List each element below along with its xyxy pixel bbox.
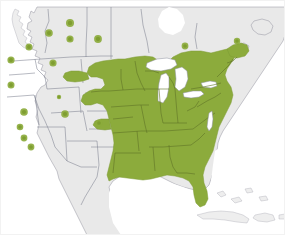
range-dot: [61, 110, 69, 118]
map-canvas: [1, 1, 285, 235]
range-dot: [66, 35, 73, 42]
range-dot-core: [96, 37, 100, 41]
range-dot-core: [9, 58, 13, 62]
range-dot: [234, 38, 240, 44]
species-range-map-figure: [0, 0, 285, 235]
range-dot: [20, 108, 28, 116]
range-dot-core: [97, 121, 101, 125]
range-dot: [26, 44, 33, 51]
range-dot-core: [68, 21, 72, 25]
range-dot: [17, 124, 24, 131]
range-dot: [57, 95, 61, 99]
range-dot-core: [27, 45, 31, 49]
range-dot: [28, 144, 35, 151]
range-dot-core: [22, 136, 26, 140]
range-dot-core: [58, 96, 60, 98]
range-dot: [96, 120, 103, 127]
range-dot: [7, 56, 14, 63]
range-dot: [182, 43, 189, 50]
range-dot-core: [22, 110, 26, 114]
range-dot-core: [183, 44, 187, 48]
range-dot: [8, 82, 15, 89]
range-dot: [21, 135, 28, 142]
range-dot-core: [18, 125, 22, 129]
range-lobe-dakotas: [63, 71, 89, 82]
range-dot: [49, 59, 56, 66]
range-dot-core: [235, 39, 239, 43]
range-dot: [66, 19, 74, 27]
range-dot-core: [29, 145, 33, 149]
range-dot-core: [9, 83, 13, 87]
puerto-rico: [279, 214, 285, 219]
range-dot-core: [47, 31, 51, 35]
range-dot: [45, 29, 53, 37]
range-dot-core: [68, 37, 72, 41]
range-dot-core: [51, 61, 55, 65]
range-dot-core: [63, 112, 67, 116]
range-dot: [94, 35, 102, 43]
